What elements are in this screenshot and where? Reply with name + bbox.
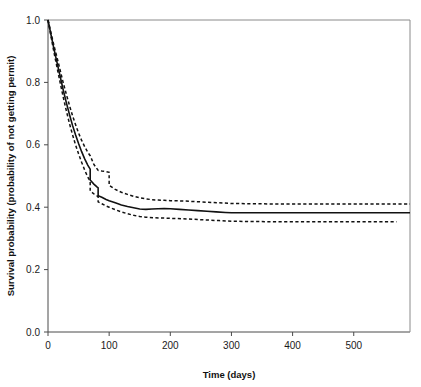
x-tick-label: 200 <box>162 340 179 351</box>
x-tick-label: 100 <box>101 340 118 351</box>
y-tick-label: 0.0 <box>26 327 40 338</box>
y-axis-ticks: 0.00.20.40.60.81.0 <box>26 15 48 338</box>
survival-curve-line <box>48 20 410 213</box>
x-axis-title: Time (days) <box>203 369 256 380</box>
survival-curve-chart: 0.00.20.40.60.81.0 0100200300400500 Time… <box>0 0 421 387</box>
chart-page: 0.00.20.40.60.81.0 0100200300400500 Time… <box>0 0 421 387</box>
axis-left-bottom <box>48 20 410 332</box>
y-tick-label: 0.6 <box>26 139 40 150</box>
x-tick-label: 300 <box>223 340 240 351</box>
x-tick-label: 500 <box>345 340 362 351</box>
x-tick-label: 400 <box>284 340 301 351</box>
y-tick-label: 0.4 <box>26 202 40 213</box>
x-axis-ticks: 0100200300400500 <box>45 332 362 351</box>
plot-frame <box>48 20 410 332</box>
y-axis-title: Survival probability (probability of not… <box>5 56 16 297</box>
chart-series-group <box>48 20 410 222</box>
y-tick-label: 1.0 <box>26 15 40 26</box>
axis-top-right <box>48 20 410 332</box>
y-tick-label: 0.8 <box>26 77 40 88</box>
y-tick-label: 0.2 <box>26 264 40 275</box>
x-tick-label: 0 <box>45 340 51 351</box>
confidence-band-line <box>48 20 410 204</box>
confidence-band-line <box>48 20 397 222</box>
